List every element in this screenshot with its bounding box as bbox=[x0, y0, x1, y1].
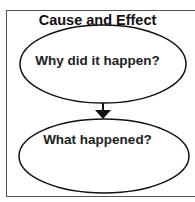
arrow-head-icon bbox=[95, 110, 111, 119]
effect-label: What happened? bbox=[0, 132, 195, 147]
effect-ellipse bbox=[19, 119, 189, 193]
cause-label: Why did it happen? bbox=[0, 53, 195, 68]
diagram-canvas bbox=[0, 0, 195, 202]
